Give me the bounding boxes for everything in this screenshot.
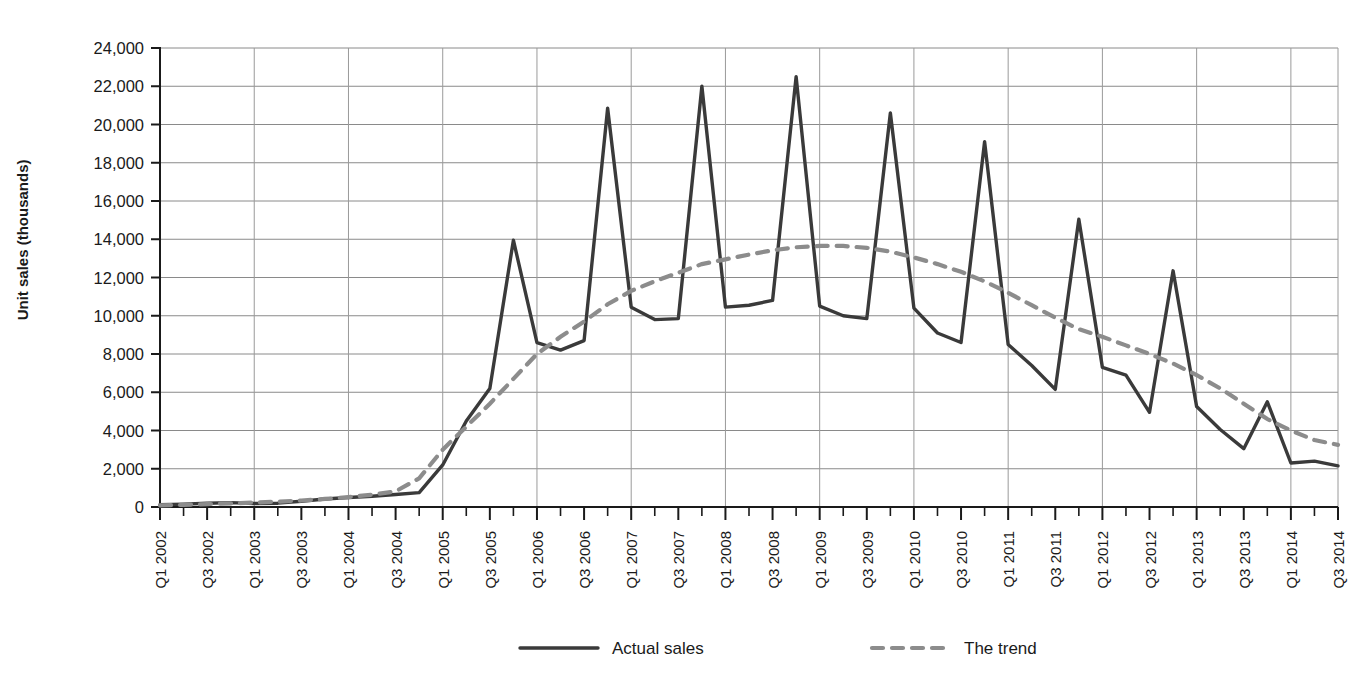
- y-tick-label: 2,000: [103, 460, 144, 478]
- y-tick-label: 6,000: [103, 383, 144, 401]
- y-tick-label: 8,000: [103, 345, 144, 363]
- x-tick-label: Q3 2003: [293, 531, 310, 589]
- x-tick-label: Q3 2011: [1047, 531, 1064, 587]
- data-series-group: [160, 77, 1338, 506]
- y-axis-title-group: Unit sales (thousands): [14, 160, 31, 321]
- x-tick-label: Q1 2007: [623, 531, 640, 589]
- x-tick-label: Q1 2006: [529, 531, 546, 589]
- x-axis-tick-labels: Q1 2002Q3 2002Q1 2003Q3 2003Q1 2004Q3 20…: [152, 531, 1347, 589]
- x-tick-label: Q1 2008: [717, 531, 734, 589]
- x-tick-label: Q3 2014: [1330, 531, 1347, 589]
- y-tick-label: 24,000: [94, 39, 144, 57]
- x-tick-label: Q3 2006: [576, 531, 593, 589]
- y-tick-label: 4,000: [103, 422, 144, 440]
- x-tick-label: Q1 2014: [1283, 531, 1300, 589]
- x-tick-label: Q1 2012: [1094, 531, 1111, 589]
- x-tick-label: Q3 2004: [388, 531, 405, 589]
- axes-group: [151, 47, 1338, 520]
- y-axis-title: Unit sales (thousands): [14, 160, 31, 321]
- y-tick-label: 20,000: [94, 116, 144, 134]
- x-tick-label: Q1 2011: [1000, 531, 1017, 587]
- x-tick-label: Q1 2010: [906, 531, 923, 589]
- y-axis-tick-labels: 02,0004,0006,0008,00010,00012,00014,0001…: [94, 39, 144, 516]
- x-tick-label: Q3 2012: [1142, 531, 1159, 589]
- x-tick-label: Q1 2004: [340, 531, 357, 589]
- series-line-actual-sales: [160, 77, 1338, 505]
- y-tick-label: 12,000: [94, 269, 144, 287]
- x-tick-label: Q1 2005: [435, 531, 452, 589]
- y-tick-label: 14,000: [94, 230, 144, 248]
- x-tick-label: Q3 2009: [859, 531, 876, 589]
- y-tick-label: 0: [135, 498, 144, 516]
- x-tick-label: Q1 2013: [1189, 531, 1206, 589]
- line-chart: 02,0004,0006,0008,00010,00012,00014,0001…: [0, 0, 1363, 699]
- y-tick-label: 18,000: [94, 154, 144, 172]
- x-tick-label: Q3 2008: [765, 531, 782, 589]
- x-tick-label: Q3 2007: [670, 531, 687, 589]
- series-line-trend: [160, 246, 1338, 506]
- legend-label: Actual sales: [612, 639, 704, 658]
- x-tick-label: Q1 2003: [246, 531, 263, 589]
- y-tick-label: 22,000: [94, 77, 144, 95]
- chart-legend: Actual salesThe trend: [520, 639, 1037, 658]
- x-tick-label: Q3 2010: [953, 531, 970, 589]
- y-tick-label: 10,000: [94, 307, 144, 325]
- x-tick-label: Q1 2002: [152, 531, 169, 589]
- figure-container: 02,0004,0006,0008,00010,00012,00014,0001…: [0, 0, 1363, 699]
- y-tick-label: 16,000: [94, 192, 144, 210]
- legend-label: The trend: [964, 639, 1037, 658]
- x-tick-label: Q1 2009: [812, 531, 829, 589]
- gridlines-group: [160, 48, 1338, 507]
- x-tick-label: Q3 2005: [482, 531, 499, 589]
- x-tick-label: Q3 2013: [1236, 531, 1253, 589]
- x-tick-label: Q3 2002: [199, 531, 216, 589]
